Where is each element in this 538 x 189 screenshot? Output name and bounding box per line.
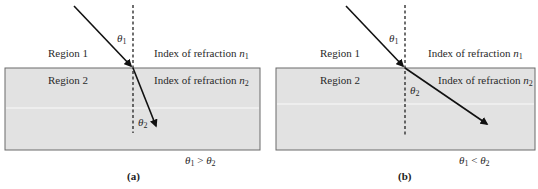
angle-relation: θ1 < θ2: [459, 154, 490, 168]
index2-label: Index of refraction n2: [154, 74, 249, 88]
index1-label: Index of refraction n1: [428, 47, 523, 61]
theta1-label: θ1: [117, 32, 126, 46]
caption-a: (a): [127, 170, 140, 182]
region2-label: Region 2: [48, 74, 88, 86]
refraction-diagram-a: [0, 0, 269, 189]
region1-label: Region 1: [320, 47, 360, 59]
caption-b: (b): [398, 170, 411, 182]
refraction-diagram-b: [269, 0, 538, 189]
region2-label: Region 2: [320, 74, 360, 86]
region1-label: Region 1: [48, 47, 88, 59]
theta2-label: θ2: [138, 116, 147, 130]
theta2-label: θ2: [410, 84, 419, 98]
index2-label: Index of refraction n2: [438, 74, 533, 88]
panel-b: Region 1 Region 2 Index of refraction n1…: [269, 0, 538, 189]
panel-a: Region 1 Region 2 Index of refraction n1…: [0, 0, 269, 189]
theta1-label: θ1: [389, 32, 398, 46]
angle-relation: θ1 > θ2: [185, 154, 216, 168]
index1-label: Index of refraction n1: [154, 47, 249, 61]
